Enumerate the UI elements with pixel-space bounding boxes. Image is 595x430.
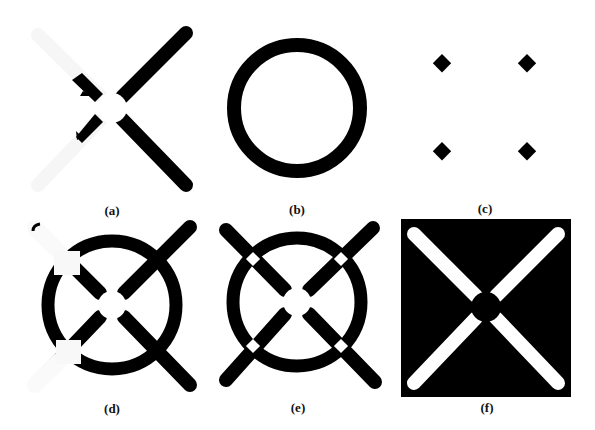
- panel-label-b: (b): [289, 202, 305, 218]
- panel-label-e: (e): [291, 400, 305, 416]
- panel-b-ring: [234, 45, 360, 171]
- panel-f-shape: [401, 219, 571, 397]
- panel-label-a: (a): [104, 203, 119, 219]
- panel-e-shape: [226, 228, 375, 382]
- panel-label-f: (f): [481, 400, 494, 416]
- panel-d-shape: [33, 224, 190, 385]
- panel-label-c: (c): [478, 201, 492, 217]
- panel-a-shape: [38, 33, 186, 185]
- panel-c-diamonds: [433, 54, 536, 160]
- panel-label-d: (d): [104, 401, 120, 417]
